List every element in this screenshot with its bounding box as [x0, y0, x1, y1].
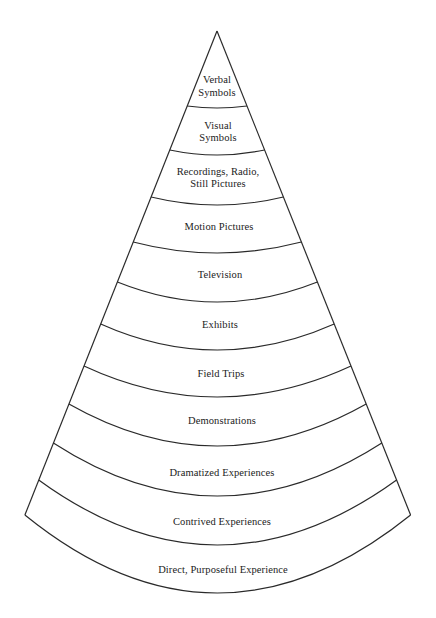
- band-label: Television: [198, 269, 243, 280]
- band-demonstrations: Demonstrations: [188, 415, 256, 426]
- band-label: Exhibits: [202, 319, 238, 330]
- band-field-trips: Field Trips: [198, 368, 245, 379]
- band-divider-2: [170, 150, 265, 155]
- band-label: Dramatized Experiences: [169, 467, 274, 478]
- band-label: Direct, Purposeful Experience: [158, 564, 288, 575]
- band-verbal-symbols: Verbal Symbols: [198, 74, 235, 98]
- band-direct-purposeful-experience: Direct, Purposeful Experience: [158, 564, 288, 575]
- band-label: Field Trips: [198, 368, 245, 379]
- band-divider-1: [187, 106, 247, 108]
- band-label: Contrived Experiences: [173, 516, 271, 527]
- cone-of-experience-diagram: Verbal Symbols Visual Symbols Recordings…: [0, 0, 436, 618]
- band-motion-pictures: Motion Pictures: [185, 221, 254, 232]
- band-divider-10: [39, 480, 397, 545]
- band-label: Demonstrations: [188, 415, 256, 426]
- band-recordings-radio-still-pictures: Recordings, Radio, Still Pictures: [177, 166, 260, 189]
- band-exhibits: Exhibits: [202, 319, 238, 330]
- band-label: Motion Pictures: [185, 221, 254, 232]
- band-dramatized-experiences: Dramatized Experiences: [169, 467, 274, 478]
- band-visual-symbols: Visual Symbols: [199, 120, 236, 143]
- band-label: Still Pictures: [190, 178, 245, 189]
- band-label: Verbal: [203, 74, 231, 85]
- band-divider-4: [133, 242, 301, 253]
- band-label: Visual: [204, 120, 231, 131]
- band-divider-3: [151, 197, 283, 205]
- cone-left-edge: [25, 31, 217, 515]
- band-label: Recordings, Radio,: [177, 166, 260, 177]
- band-contrived-experiences: Contrived Experiences: [173, 516, 271, 527]
- band-label: Symbols: [199, 132, 236, 143]
- band-label: Symbols: [198, 87, 235, 98]
- band-divider-5: [117, 282, 317, 302]
- cone-right-edge: [217, 31, 411, 515]
- band-television: Television: [198, 269, 243, 280]
